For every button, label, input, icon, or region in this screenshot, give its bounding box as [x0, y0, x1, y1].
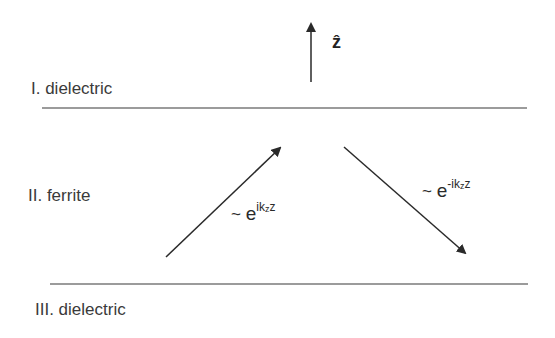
- diagram-graphics: [0, 0, 555, 338]
- exp-pre: -ik: [447, 177, 460, 191]
- tilde: ~: [231, 205, 241, 224]
- exp-post: z: [464, 177, 470, 191]
- region-label-3: III. dielectric: [35, 300, 126, 320]
- incident-wave-equation: ~ eikzz: [231, 200, 275, 225]
- region-label-1: I. dielectric: [31, 79, 112, 99]
- exp-base: e: [246, 203, 257, 224]
- exp-pre: ik: [256, 200, 265, 214]
- reflected-wave-equation: ~ e-ikzz: [422, 177, 470, 202]
- exp-post: z: [269, 200, 275, 214]
- z-axis-label: ẑ: [332, 32, 341, 53]
- waveguide-diagram: ẑ I. dielectric II. ferrite III. dielect…: [0, 0, 555, 338]
- region-label-2: II. ferrite: [28, 186, 90, 206]
- exp-base: e: [437, 180, 448, 201]
- tilde: ~: [422, 182, 432, 201]
